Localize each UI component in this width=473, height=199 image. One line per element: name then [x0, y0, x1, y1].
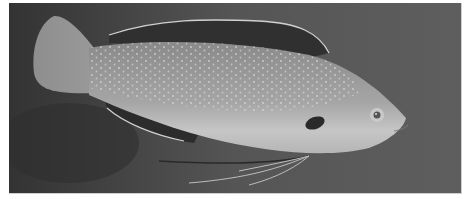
fish-photo: Grayscale photograph of a spotted wrasse…	[9, 3, 462, 194]
fish-eye	[370, 108, 384, 122]
fish-illustration	[9, 3, 461, 193]
